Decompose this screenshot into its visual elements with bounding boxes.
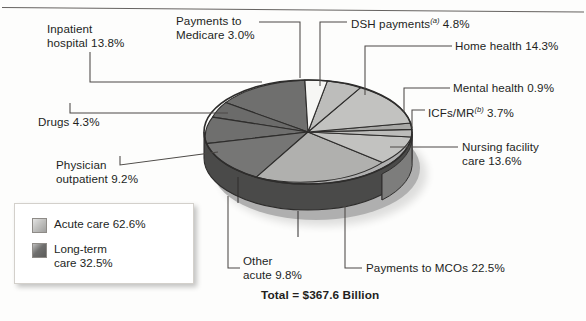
- leader-dsh-payments: [320, 22, 347, 86]
- label-icfs-mr-text: ICFs/MR: [428, 106, 474, 119]
- legend-item-long-term-care[interactable]: Long-term care 32.5%: [32, 242, 113, 269]
- label-payments-to-mcos: Payments to MCOs 22.5%: [366, 261, 576, 275]
- label-other-acute: Other acute 9.8%: [243, 254, 333, 281]
- label-dsh-payments: DSH payments(a) 4.8%: [351, 14, 526, 30]
- total-label: Total = $367.6 Billion: [261, 288, 379, 302]
- leader-inpatient-hospital: [90, 52, 262, 82]
- label-icfs-mr-superscript: (b): [474, 105, 483, 114]
- label-nursing-facility-care: Nursing facility care 13.6%: [462, 140, 582, 167]
- leader-drugs: [70, 103, 228, 113]
- label-drugs: Drugs 4.3%: [38, 115, 158, 129]
- label-dsh-payments-text: DSH payments: [351, 17, 430, 30]
- label-icfs-mr-value: 3.7%: [484, 106, 514, 119]
- label-icfs-mr: ICFs/MR(b) 3.7%: [428, 103, 578, 119]
- legend-item-acute-care[interactable]: Acute care 62.6%: [32, 217, 146, 233]
- label-payments-to-medicare: Payments to Medicare 3.0%: [176, 14, 268, 41]
- figure-canvas: Inpatient hospital 13.8% Drugs 4.3% Phys…: [0, 0, 586, 321]
- leader-icfs-mr: [412, 110, 425, 128]
- leader-payments-to-mcos: [345, 205, 362, 268]
- leader-other-acute: [228, 196, 240, 268]
- label-home-health: Home health 14.3%: [455, 39, 586, 53]
- acute-care-swatch-icon: [32, 218, 47, 233]
- label-physician-outpatient: Physician outpatient 9.2%: [56, 158, 186, 185]
- label-mental-health: Mental health 0.9%: [453, 81, 586, 95]
- legend-item-long-term-care-label: Long-term care 32.5%: [54, 242, 113, 269]
- legend-box: Acute care 62.6% Long-term care 32.5%: [14, 203, 194, 284]
- label-dsh-payments-value: 4.8%: [439, 17, 469, 30]
- legend-item-acute-care-label: Acute care 62.6%: [54, 217, 146, 231]
- label-inpatient-hospital: Inpatient hospital 13.8%: [47, 22, 157, 49]
- long-term-care-swatch-icon: [32, 243, 47, 258]
